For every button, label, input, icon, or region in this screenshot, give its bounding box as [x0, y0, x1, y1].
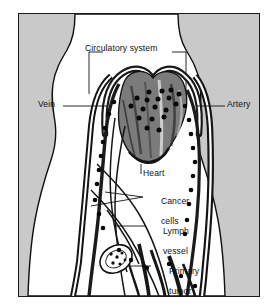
diagram-frame: Circulatory system Vein Artery Heart Can…	[18, 13, 260, 297]
label-primary-tumor-line2: tumor	[169, 286, 191, 296]
label-lymph-vessel-line1: Lymph	[163, 226, 189, 236]
label-heart: Heart	[143, 169, 165, 179]
label-primary-tumor: Primary tumor	[154, 256, 199, 297]
label-lymph-vessel-line2: vessel	[163, 246, 188, 256]
label-artery: Artery	[227, 100, 251, 110]
label-circulatory-system: Circulatory system	[85, 44, 157, 54]
label-primary-tumor-line1: Primary	[169, 266, 199, 276]
anatomy-illustration	[19, 14, 259, 296]
diagram-canvas: Circulatory system Vein Artery Heart Can…	[0, 0, 272, 308]
label-cancer-cells-line1: Cancer	[161, 196, 189, 206]
label-vein: Vein	[38, 100, 55, 110]
